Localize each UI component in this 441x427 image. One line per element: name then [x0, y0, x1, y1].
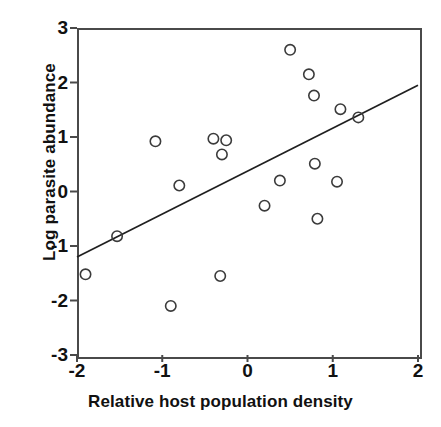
x-axis-title: Relative host population density: [0, 392, 441, 412]
x-axis-tick-labels: -2-1012: [0, 361, 441, 387]
x-axis-tick-label: 0: [228, 361, 268, 380]
x-axis-tick-label: -2: [57, 361, 97, 380]
x-axis-tick-label: 1: [313, 361, 353, 380]
scatter-plot-figure: 3210-1-2-3 -2-1012 Log parasite abundanc…: [0, 0, 441, 427]
y-axis-title-container: Log parasite abundance: [40, 0, 64, 327]
x-axis-tick-label: 2: [398, 361, 438, 380]
y-axis-title: Log parasite abundance: [40, 0, 60, 327]
x-axis-tick-label: -1: [142, 361, 182, 380]
y-axis-ticks: [70, 28, 77, 355]
plot-area: [77, 28, 422, 359]
